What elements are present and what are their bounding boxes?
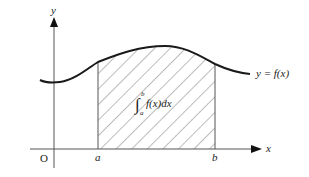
- integral-diagram: y x O a b y = f(x) ∫ b a f(x)dx: [0, 0, 309, 177]
- y-axis: [50, 17, 58, 168]
- origin-label: O: [40, 152, 48, 164]
- curve-label: y = f(x): [255, 67, 289, 80]
- integral-upper-limit: b: [141, 90, 145, 98]
- upper-bound-label: b: [212, 151, 218, 163]
- shaded-area-region: [98, 40, 215, 150]
- y-axis-label: y: [50, 4, 56, 16]
- lower-bound-label: a: [95, 151, 101, 163]
- integral-lower-limit: a: [140, 109, 144, 117]
- y-axis-arrow-icon: [50, 17, 58, 27]
- x-axis-label: x: [265, 142, 271, 154]
- x-axis-arrow-icon: [251, 145, 262, 153]
- integrand: f(x)dx: [146, 97, 172, 110]
